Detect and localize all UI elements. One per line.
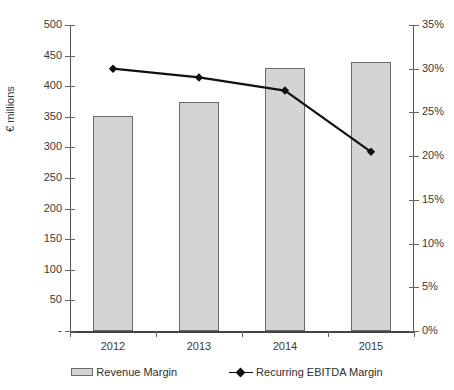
left-axis-tick-label: 100 <box>44 264 62 275</box>
line-marker-2012[interactable] <box>109 65 117 73</box>
line-marker-2013[interactable] <box>195 73 203 81</box>
right-axis-tick <box>409 200 419 201</box>
x-axis-label-2013: 2013 <box>169 340 229 352</box>
left-axis-tick-label: 300 <box>44 141 62 152</box>
left-axis-tick-label: 350 <box>44 111 62 122</box>
right-axis-tick <box>409 69 419 70</box>
bar-2012[interactable] <box>93 116 133 331</box>
right-axis-tick-label: 20% <box>422 150 444 161</box>
left-axis-tick-label: 200 <box>44 203 62 214</box>
right-axis-tick <box>409 244 419 245</box>
x-axis-tick <box>156 331 157 337</box>
legend-item-revenue-margin[interactable]: Revenue Margin <box>71 366 177 378</box>
right-axis-tick <box>409 25 419 26</box>
right-axis-tick <box>409 156 419 157</box>
bar-2013[interactable] <box>179 102 219 331</box>
x-axis-tick <box>328 331 329 337</box>
left-axis-tick-label: - <box>58 325 62 336</box>
x-axis-tick <box>70 331 71 337</box>
left-axis-tick-label: 150 <box>44 233 62 244</box>
left-axis-tick-label: 500 <box>44 19 62 30</box>
left-axis-tick <box>65 56 75 57</box>
legend-label-recurring-ebitda-margin: Recurring EBITDA Margin <box>256 366 383 378</box>
bar-2015[interactable] <box>351 62 391 331</box>
right-axis-tick-label: 0% <box>422 325 438 336</box>
x-axis-label-2012: 2012 <box>83 340 143 352</box>
x-axis-label-2015: 2015 <box>341 340 401 352</box>
x-axis-label-2014: 2014 <box>255 340 315 352</box>
chart-container: € millions 50045040035030025020015010050… <box>0 0 454 390</box>
left-axis-tick <box>65 270 75 271</box>
right-axis-tick <box>409 112 419 113</box>
left-axis-tick <box>65 300 75 301</box>
left-axis-tick <box>65 147 75 148</box>
right-axis-tick-label: 5% <box>422 281 438 292</box>
y-axis-title: € millions <box>4 86 16 132</box>
x-axis-tick <box>242 331 243 337</box>
left-axis-tick-label: 400 <box>44 80 62 91</box>
right-axis-tick-label: 10% <box>422 238 444 249</box>
chart-legend: Revenue Margin Recurring EBITDA Margin <box>0 366 454 378</box>
legend-bar-swatch-icon <box>71 368 93 376</box>
right-axis-tick <box>409 287 419 288</box>
line-path <box>113 69 371 152</box>
left-axis-tick <box>65 178 75 179</box>
left-axis-tick-label: 450 <box>44 50 62 61</box>
legend-item-recurring-ebitda-margin[interactable]: Recurring EBITDA Margin <box>229 366 383 378</box>
left-axis-tick-label: 50 <box>50 294 62 305</box>
left-axis-tick <box>65 209 75 210</box>
right-axis-tick-label: 30% <box>422 63 444 74</box>
left-axis-tick <box>65 86 75 87</box>
legend-label-revenue-margin: Revenue Margin <box>96 366 177 378</box>
bar-2014[interactable] <box>265 68 305 331</box>
right-axis-line <box>413 25 414 332</box>
left-axis-tick-label: 250 <box>44 172 62 183</box>
left-axis-tick <box>65 239 75 240</box>
right-axis-tick-label: 35% <box>422 19 444 30</box>
left-axis-tick <box>65 25 75 26</box>
legend-line-swatch-icon <box>229 368 253 377</box>
right-axis-tick-label: 15% <box>422 194 444 205</box>
x-axis-tick <box>414 331 415 337</box>
right-axis-tick-label: 25% <box>422 106 444 117</box>
left-axis-tick <box>65 117 75 118</box>
